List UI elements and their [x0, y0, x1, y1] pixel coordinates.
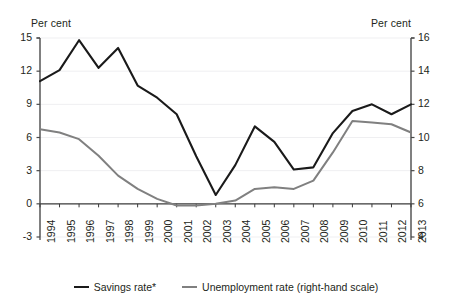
x-tick-label: 1995: [65, 220, 77, 243]
x-tick-label: 2004: [240, 220, 252, 243]
chart-container: Per cent Per cent 15129630-3 16141210864…: [0, 0, 452, 308]
x-tick-label: 2002: [201, 220, 213, 243]
left-tick-label: 0: [16, 197, 32, 209]
left-tick-label: 9: [16, 97, 32, 109]
x-tick-label: 2000: [162, 220, 174, 243]
left-tick-label: 15: [16, 31, 32, 43]
x-tick-label: 2001: [182, 220, 194, 243]
legend-swatch-0: [74, 286, 89, 288]
chart-legend: Savings rate*Unemployment rate (right-ha…: [0, 281, 452, 293]
legend-label-0: Savings rate*: [94, 281, 156, 293]
legend-swatch-1: [182, 286, 197, 288]
x-tick-label: 2005: [260, 220, 272, 243]
tick-marks: [37, 38, 415, 240]
chart-plot-area: [0, 0, 452, 308]
x-tick-label: 2009: [338, 220, 350, 243]
left-tick-label: -3: [16, 230, 32, 242]
right-tick-label: 8: [418, 164, 434, 176]
x-tick-label: 1994: [45, 220, 57, 243]
series-line-1: [40, 121, 411, 206]
right-tick-label: 12: [418, 97, 434, 109]
x-tick-label: 2012: [396, 220, 408, 243]
x-tick-label: 1999: [143, 220, 155, 243]
legend-entry-0: Savings rate*: [74, 281, 156, 293]
series-line-0: [40, 40, 411, 195]
right-tick-label: 16: [418, 31, 434, 43]
x-tick-label: 2007: [299, 220, 311, 243]
x-tick-label: 2010: [357, 220, 369, 243]
x-tick-label: 2006: [279, 220, 291, 243]
x-tick-label: 2011: [377, 220, 389, 243]
left-tick-label: 12: [16, 64, 32, 76]
left-tick-label: 6: [16, 131, 32, 143]
left-tick-label: 3: [16, 164, 32, 176]
legend-entry-1: Unemployment rate (right-hand scale): [182, 281, 378, 293]
legend-label-1: Unemployment rate (right-hand scale): [202, 281, 378, 293]
right-tick-label: 10: [418, 131, 434, 143]
x-tick-label: 2008: [318, 220, 330, 243]
x-tick-label: 2013: [416, 220, 428, 243]
series-lines: [40, 40, 411, 205]
right-tick-label: 14: [418, 64, 434, 76]
gridlines: [40, 38, 411, 237]
x-tick-label: 2003: [221, 220, 233, 243]
right-tick-label: 6: [418, 197, 434, 209]
x-tick-label: 1996: [84, 220, 96, 243]
x-tick-label: 1997: [104, 220, 116, 243]
x-tick-label: 1998: [123, 220, 135, 243]
